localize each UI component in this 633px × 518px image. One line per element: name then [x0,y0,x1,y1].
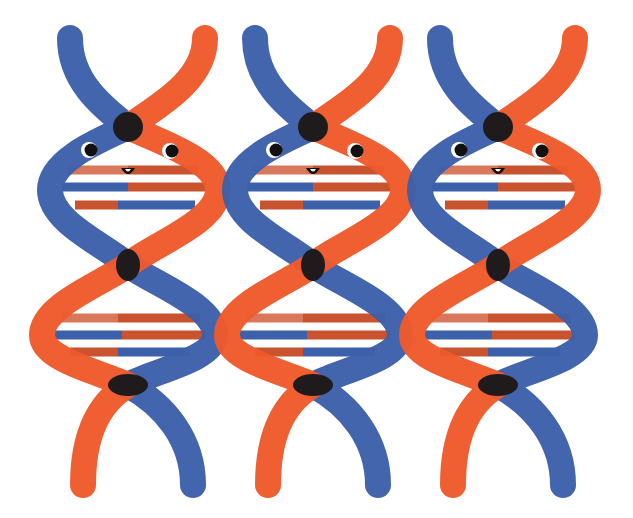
helix-3 [412,38,588,485]
helix-2 [227,38,403,485]
crossing-middle [116,249,140,281]
crossing-top [113,112,143,142]
crossing-middle [486,249,510,281]
crossing-middle [301,249,325,281]
helix-1 [42,38,218,485]
crossing-top [298,112,328,142]
dna-helices-svg [0,0,633,518]
crossing-bottom [478,374,518,396]
crossing-top [483,112,513,142]
crossing-bottom [293,374,333,396]
dna-illustration [0,0,633,518]
crossing-bottom [108,374,148,396]
